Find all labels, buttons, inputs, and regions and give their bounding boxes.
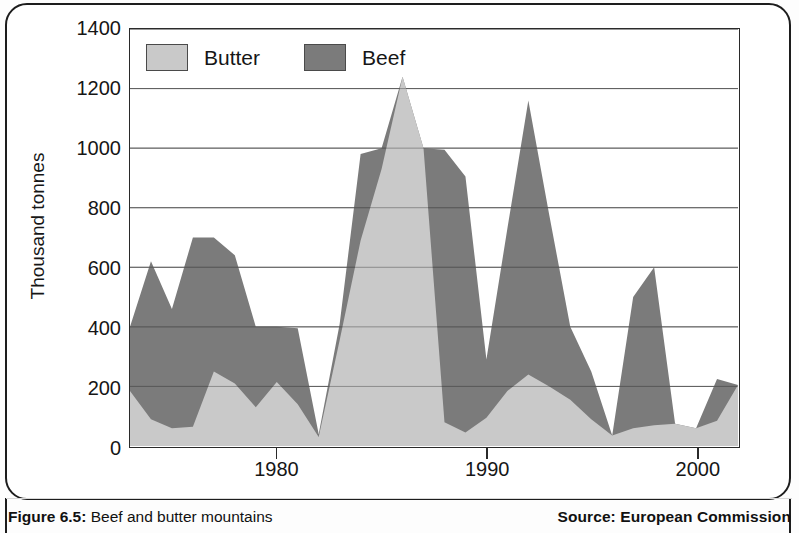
- figure-page: Thousand tonnes 140012001000800600400200…: [0, 0, 799, 533]
- y-axis-tick-label: 600: [63, 257, 121, 280]
- y-axis-tick-label: 800: [63, 197, 121, 220]
- caption-row: Figure 6.5: Beef and butter mountains So…: [8, 508, 791, 526]
- chart-legend: Butter Beef: [146, 44, 449, 71]
- figure-caption-text: Beef and butter mountains: [86, 508, 272, 525]
- plot-area: [129, 28, 740, 448]
- legend-swatch-butter: [146, 44, 188, 71]
- x-axis-tick-mark: [276, 448, 278, 459]
- legend-item-butter: Butter: [146, 44, 304, 71]
- x-axis-tick-label: 1990: [465, 458, 510, 481]
- y-axis-tick-label: 200: [63, 377, 121, 400]
- x-axis-tick-mark: [486, 448, 488, 459]
- y-axis-tick-label: 1400: [63, 17, 121, 40]
- legend-label-beef: Beef: [362, 46, 405, 70]
- legend-item-beef: Beef: [304, 44, 449, 71]
- figure-source: Source: European Commission: [557, 508, 791, 526]
- figure-caption: Figure 6.5: Beef and butter mountains: [8, 508, 273, 526]
- figure-caption-number: Figure 6.5:: [8, 508, 86, 525]
- legend-label-butter: Butter: [204, 46, 260, 70]
- legend-swatch-beef: [304, 44, 346, 71]
- y-axis-tick-labels: 1400120010008006004002000: [57, 28, 121, 448]
- caption-divider: [6, 498, 792, 499]
- y-axis-tick-label: 1000: [63, 137, 121, 160]
- chart: Thousand tonnes 140012001000800600400200…: [0, 0, 799, 533]
- y-axis-tick-label: 1200: [63, 77, 121, 100]
- x-axis-tick-mark: [697, 448, 699, 459]
- x-axis-tick-label: 1980: [254, 458, 299, 481]
- x-axis-tick-label: 2000: [676, 458, 721, 481]
- y-axis-tick-label: 0: [63, 437, 121, 460]
- y-axis-tick-label: 400: [63, 317, 121, 340]
- y-axis-title: Thousand tonnes: [27, 126, 49, 326]
- stacked-area-series: [130, 29, 738, 446]
